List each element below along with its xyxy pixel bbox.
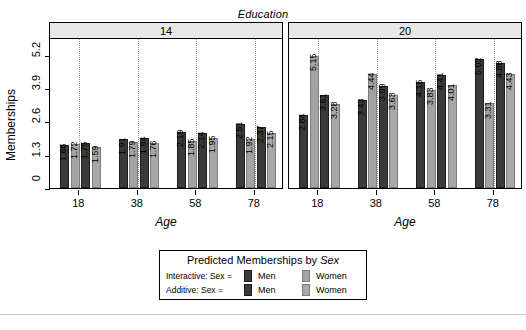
- bar-value-label: 1.94: [139, 136, 148, 154]
- bar: [368, 74, 377, 188]
- x-axis-tick-label: 38: [370, 197, 382, 209]
- bar-value-label: 1.85: [187, 139, 196, 157]
- legend-key-label: Women: [316, 285, 347, 295]
- x-axis-tick-label: 58: [189, 197, 201, 209]
- bar-value-label: 4.15: [415, 80, 424, 98]
- legend-swatch: [302, 270, 310, 282]
- legend-swatch: [244, 270, 252, 282]
- x-axis-tick-label: 58: [428, 197, 440, 209]
- bar-value-label: 1.92: [245, 137, 254, 155]
- bar-value-label: 3.99: [378, 84, 387, 102]
- bar-value-label: 1.66: [59, 143, 68, 161]
- x-axis-title: Age: [394, 215, 415, 229]
- bar-value-label: 1.75: [80, 141, 89, 159]
- figure-bottom-divider: [0, 314, 526, 315]
- x-axis-tick-marks: [288, 190, 522, 196]
- x-axis-tick-label: 18: [72, 197, 84, 209]
- x-axis-tick-label: 78: [487, 197, 499, 209]
- bar-value-label: 5.15: [309, 54, 318, 72]
- legend-key[interactable]: Women: [302, 270, 360, 282]
- facet-panel-20: 202.845.153.613.283.434.443.993.634.153.…: [288, 22, 522, 189]
- bar-value-label: 3.61: [319, 93, 328, 111]
- legend-row-label: Interactive: Sex =: [166, 271, 244, 281]
- x-axis-tick-label: 18: [311, 197, 323, 209]
- bar-value-label: 3.83: [426, 88, 435, 106]
- bar-value-label: 1.76: [149, 141, 158, 159]
- legend-key[interactable]: Women: [302, 284, 360, 296]
- bar-value-label: 3.28: [330, 102, 339, 120]
- bar-value-label: 2.37: [256, 125, 265, 143]
- panel-plot-area: 1.661.721.751.591.911.791.941.762.191.85…: [49, 39, 283, 189]
- facet-panel-14: 141.661.721.751.591.911.791.941.762.191.…: [49, 22, 283, 189]
- chart-legend: Predicted Memberships by Sex Interactive…: [159, 250, 367, 300]
- legend-key-label: Men: [258, 271, 276, 281]
- bar-value-label: 1.72: [70, 142, 79, 160]
- legend-row: Additive: Sex =MenWomen: [166, 283, 360, 297]
- y-axis-tick-label: 5.2: [31, 42, 42, 57]
- x-axis-tick-mark: [195, 190, 196, 195]
- y-axis-title: Memberships: [2, 60, 20, 190]
- y-axis-tick-label: 0: [31, 175, 42, 181]
- bar-value-label: 1.59: [91, 145, 100, 163]
- legend-row: Interactive: Sex =MenWomen: [166, 269, 360, 283]
- legend-swatch: [302, 284, 310, 296]
- y-axis-tick-label: 2.6: [31, 108, 42, 123]
- legend-swatch: [244, 284, 252, 296]
- bar-value-label: 2.15: [266, 131, 275, 149]
- bar-value-label: 3.43: [357, 98, 366, 116]
- bar-value-label: 4.88: [495, 61, 504, 79]
- legend-key[interactable]: Men: [244, 284, 302, 296]
- bar-value-label: 4.44: [367, 72, 376, 90]
- x-axis-tick-mark: [376, 190, 377, 195]
- bar-value-label: 2.19: [176, 130, 185, 148]
- bar-value-label: 3.63: [388, 93, 397, 111]
- bar-value-label: 1.91: [118, 137, 127, 155]
- legend-title: Predicted Memberships by Sex: [166, 254, 360, 266]
- y-axis-tick-labels: 01.32.63.95.2: [26, 39, 42, 189]
- x-axis-tick-mark: [317, 190, 318, 195]
- bar-value-label: 3.31: [484, 101, 493, 119]
- legend-key[interactable]: Men: [244, 270, 302, 282]
- bar-value-label: 1.95: [208, 136, 217, 154]
- x-axis-tick-label: 38: [131, 197, 143, 209]
- x-axis-tick-label: 78: [248, 197, 260, 209]
- bar: [475, 59, 484, 188]
- legend-key-label: Men: [258, 285, 276, 295]
- bar-value-label: 4.01: [447, 83, 456, 101]
- bar: [506, 74, 515, 188]
- panel-plot-area: 2.845.153.613.283.434.443.993.634.153.83…: [288, 39, 522, 189]
- bar-value-label: 4.43: [505, 72, 514, 90]
- bar-value-label: 2.14: [197, 131, 206, 149]
- x-axis-tick-mark: [434, 190, 435, 195]
- bar: [416, 82, 425, 188]
- facet-strip-label: 20: [288, 22, 522, 39]
- x-axis-tick-mark: [254, 190, 255, 195]
- x-axis-tick-mark: [137, 190, 138, 195]
- facet-variable-label: Education: [0, 8, 526, 20]
- bar-value-label: 2.84: [298, 113, 307, 131]
- x-axis-tick-marks: [49, 190, 283, 196]
- bar-value-label: 4.41: [436, 73, 445, 91]
- bar-value-label: 1.79: [128, 140, 137, 158]
- bar-value-label: 2.51: [235, 122, 244, 140]
- x-axis-tick-mark: [493, 190, 494, 195]
- bar: [310, 56, 319, 188]
- legend-row-label: Additive: Sex =: [166, 285, 244, 295]
- chart-figure: Education Memberships 01.32.63.95.2 141.…: [0, 0, 526, 330]
- legend-title-prefix: Predicted Memberships by: [187, 254, 320, 266]
- x-axis-title: Age: [155, 215, 176, 229]
- facet-strip-label: 14: [49, 22, 283, 39]
- bar: [437, 75, 446, 188]
- y-axis-tick-label: 3.9: [31, 75, 42, 90]
- legend-key-label: Women: [316, 271, 347, 281]
- y-axis-tick-label: 1.3: [31, 142, 42, 157]
- x-axis-tick-mark: [78, 190, 79, 195]
- legend-title-variable: Sex: [320, 254, 339, 266]
- bar-value-label: 5.02: [474, 57, 483, 75]
